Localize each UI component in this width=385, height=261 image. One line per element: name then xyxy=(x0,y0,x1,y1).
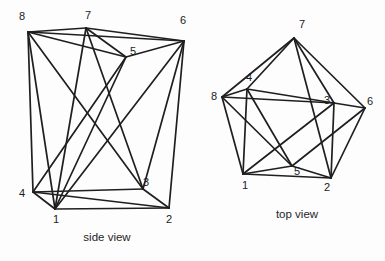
vertex-label-3: 3 xyxy=(324,94,330,106)
vertex-label-2: 2 xyxy=(324,181,330,193)
vertex-label-8: 8 xyxy=(211,90,217,102)
vertex-label-8: 8 xyxy=(19,10,25,22)
vertex-label-2: 2 xyxy=(166,213,172,225)
caption-side-view: side view xyxy=(83,231,131,243)
vertex-label-6: 6 xyxy=(367,95,373,107)
vertex-label-5: 5 xyxy=(130,45,136,57)
caption-top-view: top view xyxy=(276,208,319,220)
vertex-label-4: 4 xyxy=(246,71,252,83)
graph-diagram: 12345678side view 12345678top view xyxy=(0,0,385,261)
vertex-label-3: 3 xyxy=(143,176,149,188)
vertex-label-7: 7 xyxy=(299,18,305,30)
vertex-label-4: 4 xyxy=(19,187,25,199)
vertex-label-1: 1 xyxy=(242,179,248,191)
vertex-label-1: 1 xyxy=(53,213,59,225)
vertex-label-5: 5 xyxy=(294,165,300,177)
graph-edge-1-2 xyxy=(55,208,169,209)
vertex-label-6: 6 xyxy=(180,14,186,26)
vertex-label-7: 7 xyxy=(85,9,91,21)
